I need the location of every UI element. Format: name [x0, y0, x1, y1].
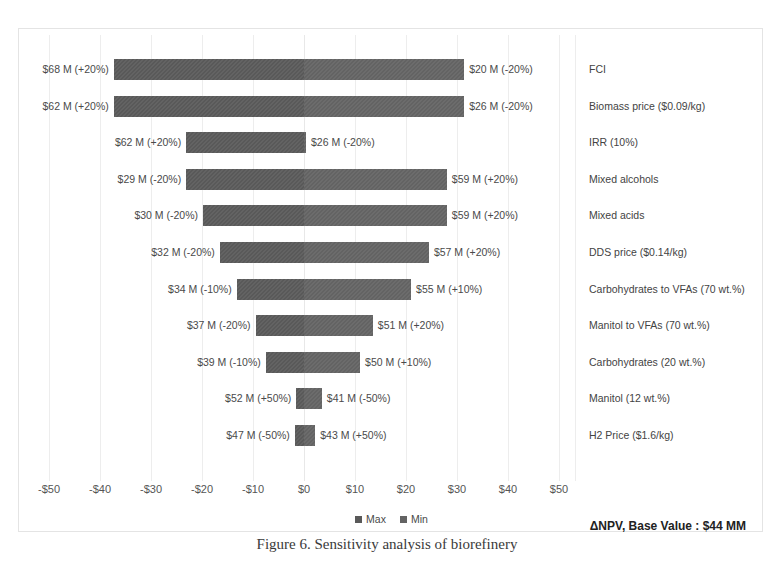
- x-tick-label: $30: [448, 483, 466, 495]
- category-label: Manitol (12 wt.%): [589, 390, 670, 406]
- bar-value-label-left: $62 M (+20%): [43, 98, 114, 114]
- bar-segment-min: [304, 425, 315, 446]
- chart-frame: $68 M (+20%)$20 M (-20%)$62 M (+20%)$26 …: [18, 28, 763, 532]
- legend-swatch-icon: [355, 516, 362, 523]
- bar-segment-min: [304, 169, 447, 190]
- legend-label: Min: [411, 513, 428, 525]
- category-label: Carbohydrates to VFAs (70 wt.%): [589, 281, 745, 297]
- x-axis: -$50-$40-$30-$20-$10$0$10$20$30$40$50: [19, 481, 764, 505]
- bar-value-label-left: $37 M (-20%): [187, 317, 256, 333]
- bar-value-label-left: $30 M (-20%): [134, 207, 203, 223]
- category-label-column: FCIBiomass price ($0.09/kg)IRR (10%)Mixe…: [575, 29, 764, 481]
- bar-segment-min: [304, 205, 447, 226]
- bar-value-label-right: $51 M (+20%): [373, 317, 444, 333]
- bar-segment-max: [186, 169, 304, 190]
- bar-value-label-left: $39 M (-10%): [197, 354, 266, 370]
- bar-segment-min: [304, 96, 464, 117]
- bar-segment-max: [296, 388, 304, 409]
- bar-value-label-right: $26 M (-20%): [306, 134, 375, 150]
- base-value-note: ΔNPV, Base Value : $44 MM: [590, 519, 746, 533]
- bar-segment-max: [203, 205, 304, 226]
- category-label: Manitol to VFAs (70 wt.%): [589, 317, 710, 333]
- x-tick-label: $10: [346, 483, 364, 495]
- tornado-chart-figure: $68 M (+20%)$20 M (-20%)$62 M (+20%)$26 …: [0, 0, 774, 561]
- bar-value-label-right: $59 M (+20%): [447, 207, 518, 223]
- x-tick-label: -$20: [191, 483, 213, 495]
- bar-segment-min: [304, 242, 429, 263]
- bar-value-label-left: $68 M (+20%): [43, 61, 114, 77]
- bar-segment-max: [186, 132, 304, 153]
- bar-segment-min: [304, 315, 373, 336]
- category-label: DDS price ($0.14/kg): [589, 244, 687, 260]
- legend-item[interactable]: Max: [355, 513, 386, 525]
- category-label: Biomass price ($0.09/kg): [589, 98, 705, 114]
- legend-swatch-icon: [400, 516, 407, 523]
- bar-segment-max: [114, 59, 304, 80]
- bar-value-label-left: $47 M (-50%): [226, 427, 295, 443]
- x-tick-label: -$50: [38, 483, 60, 495]
- bar-value-label-right: $26 M (-20%): [464, 98, 533, 114]
- bar-value-label-right: $59 M (+20%): [447, 171, 518, 187]
- bar-value-label-right: $50 M (+10%): [360, 354, 431, 370]
- bar-value-label-left: $52 M (+50%): [225, 390, 296, 406]
- bar-value-label-right: $43 M (+50%): [315, 427, 386, 443]
- category-label: Mixed alcohols: [589, 171, 658, 187]
- bar-segment-min: [304, 388, 322, 409]
- bar-value-label-right: $57 M (+20%): [429, 244, 500, 260]
- bar-value-label-left: $32 M (-20%): [151, 244, 220, 260]
- bar-segment-max: [295, 425, 304, 446]
- bar-value-label-right: $20 M (-20%): [464, 61, 533, 77]
- bar-value-label-left: $29 M (-20%): [118, 171, 187, 187]
- bar-value-label-left: $62 M (+20%): [115, 134, 186, 150]
- bar-segment-min: [304, 352, 360, 373]
- bar-value-label-right: $55 M (+10%): [411, 281, 482, 297]
- legend-label: Max: [366, 513, 386, 525]
- figure-caption: Figure 6. Sensitivity analysis of bioref…: [0, 536, 774, 561]
- category-label: H2 Price ($1.6/kg): [589, 427, 674, 443]
- plot-area: $68 M (+20%)$20 M (-20%)$62 M (+20%)$26 …: [19, 29, 764, 481]
- bar-segment-max: [114, 96, 304, 117]
- x-tick-label: -$10: [242, 483, 264, 495]
- bar-segment-min: [304, 279, 411, 300]
- x-tick-label: -$30: [140, 483, 162, 495]
- category-label: IRR (10%): [589, 134, 638, 150]
- category-label: FCI: [589, 61, 606, 77]
- bar-value-label-right: $41 M (-50%): [322, 390, 391, 406]
- x-tick-label: $20: [397, 483, 415, 495]
- legend-item[interactable]: Min: [400, 513, 428, 525]
- x-tick-label: $40: [499, 483, 517, 495]
- x-tick-label: $50: [550, 483, 568, 495]
- x-tick-label: -$40: [89, 483, 111, 495]
- category-label: Carbohydrates (20 wt.%): [589, 354, 705, 370]
- category-label: Mixed acids: [589, 207, 644, 223]
- x-tick-label: $0: [298, 483, 310, 495]
- bar-segment-max: [220, 242, 304, 263]
- bar-segment-min: [304, 59, 464, 80]
- bar-value-label-left: $34 M (-10%): [168, 281, 237, 297]
- bar-segment-max: [256, 315, 304, 336]
- bar-segment-max: [266, 352, 304, 373]
- bar-segment-max: [237, 279, 304, 300]
